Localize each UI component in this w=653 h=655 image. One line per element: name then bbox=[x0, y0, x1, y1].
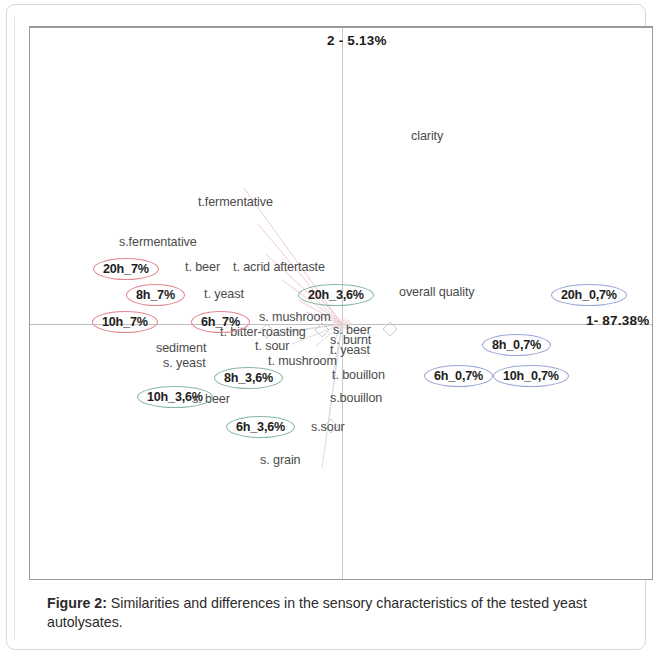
variable-label-s-sour: s.sour bbox=[311, 420, 345, 434]
sample-20h-7[interactable]: 20h_7% bbox=[93, 258, 159, 280]
sample-10h-07[interactable]: 10h_0,7% bbox=[493, 365, 569, 387]
variable-label-t-acrid-aftertaste: t. acrid aftertaste bbox=[233, 260, 325, 274]
variable-label-s-grain: s. grain bbox=[260, 453, 301, 467]
variable-label-t-yeast-upper: t. yeast bbox=[204, 287, 244, 301]
variable-label-t-bouillon: t. bouillon bbox=[332, 368, 385, 382]
x-axis-title: 1- 87.38% bbox=[586, 313, 649, 328]
sample-10h-7[interactable]: 10h_7% bbox=[92, 311, 158, 333]
sample-20h-36[interactable]: 20h_3,6% bbox=[298, 284, 374, 306]
variable-label-s-mushroom: s. mushroom bbox=[259, 310, 331, 324]
variable-label-s-yeast: s. yeast bbox=[163, 356, 206, 370]
variable-label-clarity: clarity bbox=[411, 129, 443, 143]
sample-6h-07[interactable]: 6h_0,7% bbox=[424, 365, 493, 387]
figure-caption-label: Figure 2: bbox=[47, 595, 107, 611]
variable-label-t-sour: t. sour bbox=[255, 339, 289, 353]
variable-label-overall-quality: overall quality bbox=[399, 285, 475, 299]
chart-plot-area: 2 - 5.13% 1- 87.38% clarity t.fermentati… bbox=[29, 26, 653, 580]
variable-label-t-mushroom: t. mushroom bbox=[268, 354, 337, 368]
figure-caption-text: Similarities and differences in the sens… bbox=[47, 595, 587, 630]
figure-page-card: 2 - 5.13% 1- 87.38% clarity t.fermentati… bbox=[6, 4, 646, 650]
y-axis-title: 2 - 5.13% bbox=[327, 33, 387, 48]
page-gutter-rule bbox=[14, 17, 15, 639]
sample-6h-7[interactable]: 6h_7% bbox=[191, 311, 250, 333]
variable-label-s-bouillon: s.bouillon bbox=[330, 391, 382, 405]
sample-20h-07[interactable]: 20h_0,7% bbox=[551, 284, 627, 306]
variable-label-t-fermentative: t.fermentative bbox=[198, 195, 273, 209]
variable-label-sediment: sediment bbox=[156, 341, 206, 355]
sample-8h-36[interactable]: 8h_3,6% bbox=[214, 367, 283, 389]
variable-label-s-fermentative: s.fermentative bbox=[119, 235, 197, 249]
sample-10h-36[interactable]: 10h_3,6% bbox=[137, 386, 213, 408]
figure-caption: Figure 2: Similarities and differences i… bbox=[47, 594, 631, 632]
sample-8h-07[interactable]: 8h_0,7% bbox=[482, 334, 551, 356]
sample-8h-7[interactable]: 8h_7% bbox=[126, 284, 185, 306]
variable-label-t-beer: t. beer bbox=[185, 260, 220, 274]
sample-6h-36[interactable]: 6h_3,6% bbox=[226, 416, 295, 438]
